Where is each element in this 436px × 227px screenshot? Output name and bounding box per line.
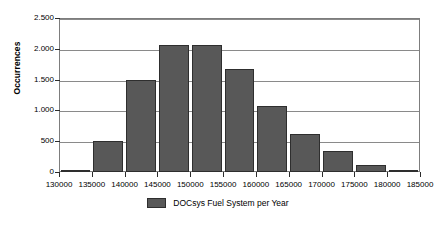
y-tick-label: 1.500: [0, 76, 54, 84]
bar: [126, 80, 156, 172]
x-tick-mark: [354, 172, 355, 177]
legend-label: DOCsys Fuel System per Year: [173, 198, 288, 208]
y-axis-title: Occurrences: [12, 18, 22, 118]
bar: [159, 45, 189, 172]
x-tick-mark: [190, 172, 191, 177]
bar: [290, 134, 320, 172]
bar: [192, 45, 222, 172]
x-tick-mark: [223, 172, 224, 177]
bar: [225, 69, 255, 172]
x-tick-mark: [322, 172, 323, 177]
chart-legend: DOCsys Fuel System per Year: [0, 198, 436, 208]
bar: [389, 170, 419, 172]
y-tick-label: 2.000: [0, 45, 54, 53]
bar: [61, 170, 91, 172]
x-tick-mark: [157, 172, 158, 177]
x-tick-label: 185000: [390, 180, 436, 189]
x-tick-mark: [92, 172, 93, 177]
y-tick-label: 2.500: [0, 14, 54, 22]
x-tick-mark: [59, 172, 60, 177]
legend-swatch: [147, 198, 166, 208]
bar: [257, 106, 287, 172]
x-tick-mark: [420, 172, 421, 177]
x-tick-mark: [289, 172, 290, 177]
x-tick-mark: [256, 172, 257, 177]
y-tick-label: 500: [0, 137, 54, 145]
x-tick-mark: [387, 172, 388, 177]
bar: [323, 151, 353, 172]
bar: [356, 165, 386, 172]
x-tick-mark: [125, 172, 126, 177]
y-tick-label: 0: [0, 168, 54, 176]
bar-series: [59, 18, 420, 172]
bar: [93, 141, 123, 172]
y-tick-label: 1.000: [0, 106, 54, 114]
bar-chart: Occurrences 05001.0001.5002.0002.500 130…: [0, 0, 436, 227]
